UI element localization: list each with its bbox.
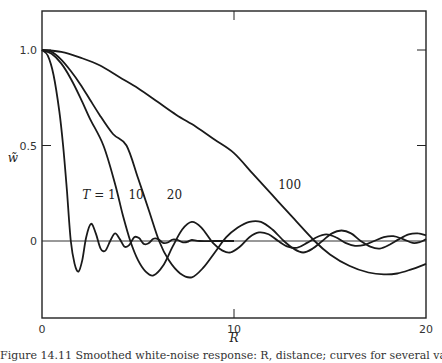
curve-label: T = 1 (82, 188, 115, 202)
y-tick-label: 0 (30, 235, 37, 248)
curve-label: 10 (128, 188, 143, 202)
y-tick-label: 0.5 (20, 140, 38, 153)
y-tick-label: 1.0 (20, 44, 38, 57)
figure-caption: Figure 14.11 Smoothed white-noise respon… (0, 349, 442, 363)
y-axis-label: w̃ (8, 151, 19, 165)
x-axis-label: R (228, 331, 238, 345)
x-tick-label: 20 (419, 323, 433, 336)
x-tick-label: 0 (39, 323, 46, 336)
curve-label: 100 (278, 178, 301, 192)
curve-label: 20 (167, 188, 182, 202)
curves (42, 50, 426, 278)
curve-t1 (42, 50, 234, 272)
